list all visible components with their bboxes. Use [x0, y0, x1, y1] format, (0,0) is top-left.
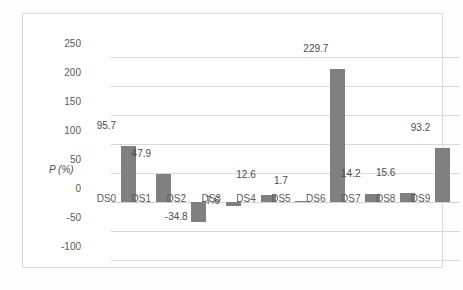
- y-axis-tick-label: -100: [35, 242, 81, 252]
- y-axis-tick-label: 150: [35, 97, 81, 107]
- y-axis-tick-label: -50: [35, 213, 81, 223]
- gridline: [111, 144, 460, 145]
- gridline: [111, 231, 460, 232]
- bar-value-label: 93.2: [393, 122, 449, 133]
- bar-value-label: 229.7: [288, 43, 344, 54]
- bar-value-label: 15.6: [358, 167, 414, 178]
- gridline: [111, 57, 460, 58]
- bar-value-label: -34.8: [148, 211, 204, 222]
- bar-value-label: 95.7: [78, 120, 134, 131]
- bar: [330, 69, 345, 202]
- chart-container: P (%) 250200150100500-50-100 95.7DS047.9…: [0, 0, 463, 290]
- gridline: [111, 115, 460, 116]
- y-axis-tick-label: 100: [35, 126, 81, 136]
- y-axis-tick-label: 250: [35, 39, 81, 49]
- gridline: [111, 260, 460, 261]
- bar-value-label: 47.9: [113, 148, 169, 159]
- bar-value-label: 1.7: [253, 175, 309, 186]
- y-axis-tick-label: 0: [35, 184, 81, 194]
- y-axis-title: P (%): [49, 164, 74, 175]
- y-axis-tick-label: 200: [35, 68, 81, 78]
- chart-frame: P (%) 250200150100500-50-100 95.7DS047.9…: [22, 13, 443, 268]
- gridline: [111, 86, 460, 87]
- y-axis-tick-label: 50: [35, 155, 81, 165]
- x-axis-category-label: DS9: [401, 193, 441, 204]
